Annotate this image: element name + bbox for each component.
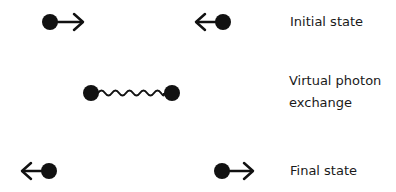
initial-state-label: Initial state xyxy=(290,13,363,31)
particle-dot-left xyxy=(83,85,99,101)
particle-dot xyxy=(214,163,230,179)
photon-exchange xyxy=(83,85,180,101)
particle-dot xyxy=(42,14,58,30)
particle-dot-right xyxy=(164,85,180,101)
virtual-photon-label-line1: Virtual photon xyxy=(289,72,381,90)
final-state-label: Final state xyxy=(290,162,357,180)
initial-left-particle xyxy=(42,14,83,30)
final-right-particle xyxy=(214,163,253,179)
virtual-photon-label-line2: exchange xyxy=(289,94,352,112)
wavy-photon-line-icon xyxy=(98,91,164,96)
initial-right-particle xyxy=(196,14,231,30)
final-left-particle xyxy=(22,163,57,179)
